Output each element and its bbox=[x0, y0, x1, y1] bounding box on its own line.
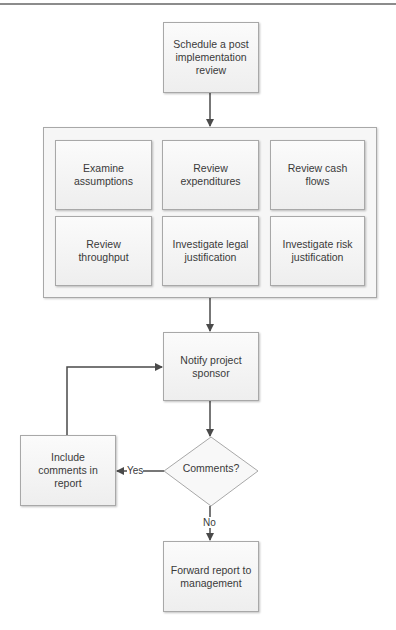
yes-edge-label: Yes bbox=[127, 465, 143, 476]
schedule-review-step: Schedule a post implementation review bbox=[163, 22, 259, 93]
notify-sponsor-label: Notify project sponsor bbox=[170, 354, 252, 380]
review-item-label: Review cash flows bbox=[277, 162, 358, 188]
review-item-label: Review expenditures bbox=[169, 162, 252, 188]
review-item-review-expenditures: Review expenditures bbox=[162, 140, 259, 210]
no-edge-label: No bbox=[203, 517, 216, 528]
review-item-label: Investigate risk justification bbox=[277, 238, 358, 264]
review-item-label: Investigate legal justification bbox=[169, 238, 252, 264]
review-item-label: Examine assumptions bbox=[62, 162, 145, 188]
forward-report-label: Forward report to management bbox=[170, 564, 252, 590]
review-item-investigate-risk: Investigate risk justification bbox=[270, 216, 365, 286]
include-comments-label: Include comments in report bbox=[27, 451, 109, 490]
forward-report-step: Forward report to management bbox=[163, 541, 259, 612]
review-item-review-cash-flows: Review cash flows bbox=[270, 140, 365, 210]
review-item-review-throughput: Review throughput bbox=[55, 216, 152, 286]
schedule-review-label: Schedule a post implementation review bbox=[170, 38, 252, 77]
decision-label: Comments? bbox=[164, 462, 258, 474]
notify-sponsor-step: Notify project sponsor bbox=[163, 332, 259, 401]
include-comments-step: Include comments in report bbox=[20, 435, 116, 506]
connector-lines bbox=[0, 0, 396, 630]
review-item-investigate-legal: Investigate legal justification bbox=[162, 216, 259, 286]
review-item-examine-assumptions: Examine assumptions bbox=[55, 140, 152, 210]
review-item-label: Review throughput bbox=[62, 238, 145, 264]
